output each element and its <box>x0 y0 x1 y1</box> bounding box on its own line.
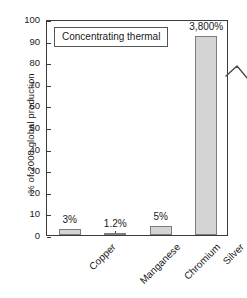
x-axis-label-copper: Copper <box>87 242 117 272</box>
y-axis-tick-mark <box>47 129 51 130</box>
y-axis-tick-label: 60 <box>0 102 44 112</box>
y-axis-tick-mark <box>47 107 51 108</box>
bar-value-label: 3% <box>63 215 77 225</box>
y-axis-tick-mark <box>47 237 51 238</box>
bar-chromium[interactable] <box>150 226 172 235</box>
plot-area: 3%1.2%5%3,800% Concentrating thermal <box>46 20 228 236</box>
y-axis-tick-label: 30 <box>0 166 44 176</box>
bar-value-label: 5% <box>154 212 168 222</box>
x-axis-label-manganese: Manganese <box>139 242 183 286</box>
y-axis-tick-label: 0 <box>0 231 44 241</box>
legend-box: Concentrating thermal <box>54 27 168 47</box>
y-axis-tick-label: 80 <box>0 58 44 68</box>
axis-break-icon <box>225 62 247 84</box>
bar-value-label: 3,800% <box>189 22 223 32</box>
y-axis-tick-label: 100 <box>0 15 44 25</box>
bar-value-label: 1.2% <box>104 219 127 229</box>
y-axis-tick-label: 70 <box>0 80 44 90</box>
bar-silver[interactable] <box>195 36 217 235</box>
legend-label: Concentrating thermal <box>62 31 160 42</box>
bar-manganese[interactable] <box>104 233 126 235</box>
y-axis-tick-label: 90 <box>0 37 44 47</box>
y-axis-tick-mark <box>47 21 51 22</box>
y-axis-tick-label: 40 <box>0 145 44 155</box>
y-axis-tick-mark <box>47 43 51 44</box>
y-axis-tick-mark <box>47 86 51 87</box>
y-axis-tick-mark <box>47 215 51 216</box>
x-axis-label-silver: Silver <box>222 242 247 267</box>
bar-copper[interactable] <box>59 229 81 235</box>
y-axis-tick-label: 20 <box>0 188 44 198</box>
y-axis-tick-mark <box>47 151 51 152</box>
y-axis-tick-mark <box>47 194 51 195</box>
y-axis-tick-label: 50 <box>0 123 44 133</box>
x-axis-label-chromium: Chromium <box>182 242 222 282</box>
bar-chart: % of 2008 global production 100908070605… <box>0 0 247 298</box>
y-axis-tick-mark <box>47 64 51 65</box>
y-axis-tick-label: 10 <box>0 210 44 220</box>
y-axis-tick-mark <box>47 172 51 173</box>
